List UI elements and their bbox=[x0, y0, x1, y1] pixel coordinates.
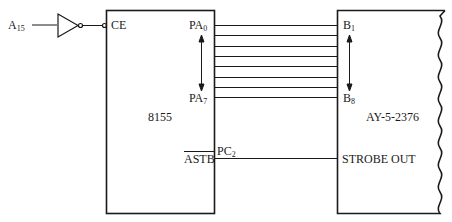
b8-base: B bbox=[343, 91, 351, 105]
b-range-arrow-icon bbox=[347, 35, 352, 91]
pa-range-arrow-icon bbox=[199, 35, 204, 91]
pa0-pin-label: PA0 bbox=[189, 19, 207, 31]
b8-sub: 8 bbox=[351, 97, 355, 106]
chip-8155-name: 8155 bbox=[148, 111, 172, 123]
pa0-base: PA bbox=[189, 18, 203, 32]
inverter-gate-icon bbox=[58, 14, 78, 37]
pc2-pin-label: PC2 bbox=[217, 145, 236, 157]
pc2-base: PC bbox=[217, 144, 232, 158]
strobe-out-pin-label: STROBE OUT bbox=[342, 153, 416, 165]
b1-sub: 1 bbox=[351, 24, 355, 33]
data-bus bbox=[215, 26, 338, 98]
pa7-pin-label: PA7 bbox=[189, 92, 207, 104]
a15-label-base: A bbox=[8, 18, 17, 32]
pa0-sub: 0 bbox=[203, 24, 207, 33]
pa7-base: PA bbox=[189, 91, 203, 105]
b8-pin-label: B8 bbox=[343, 92, 355, 104]
b1-pin-label: B1 bbox=[343, 19, 355, 31]
inverter-bubble-icon bbox=[79, 24, 83, 28]
chip-ay-name: AY-5-2376 bbox=[366, 111, 419, 123]
astb-pin-label: ASTB bbox=[184, 153, 215, 165]
pc2-sub: 2 bbox=[232, 150, 236, 159]
a15-label: A15 bbox=[8, 19, 25, 31]
pa7-sub: 7 bbox=[203, 97, 207, 106]
a15-label-sub: 15 bbox=[17, 24, 25, 33]
ce-pin-label: CE bbox=[111, 19, 126, 31]
b1-base: B bbox=[343, 18, 351, 32]
